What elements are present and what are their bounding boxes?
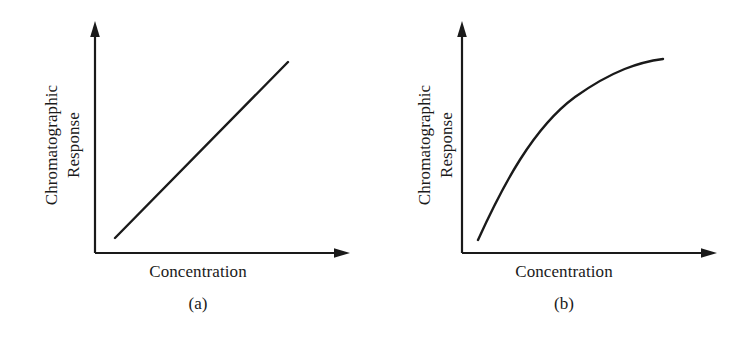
data-curve-saturating [478,59,663,240]
data-curve-linear [115,62,288,238]
x-axis-label: Concentration [11,262,385,282]
figure-root: Chromatographic Response Concentration (… [0,0,749,339]
x-axis-arrowhead-icon [334,248,350,258]
panel-caption: (b) [377,294,749,314]
y-axis-label-line1: Chromatographic [414,50,436,240]
x-axis-label: Concentration [377,262,749,282]
y-axis-label-line2: Response [436,50,458,240]
y-axis-arrowhead-icon [457,21,467,37]
panel-b: Chromatographic Response Concentration (… [375,0,749,339]
y-axis-arrowhead-icon [90,21,100,37]
x-axis-arrowhead-icon [701,248,717,258]
y-axis-label-line2: Response [63,50,85,240]
panel-caption: (a) [11,294,385,314]
y-axis-label-line1: Chromatographic [41,50,63,240]
panel-a: Chromatographic Response Concentration (… [0,0,374,339]
